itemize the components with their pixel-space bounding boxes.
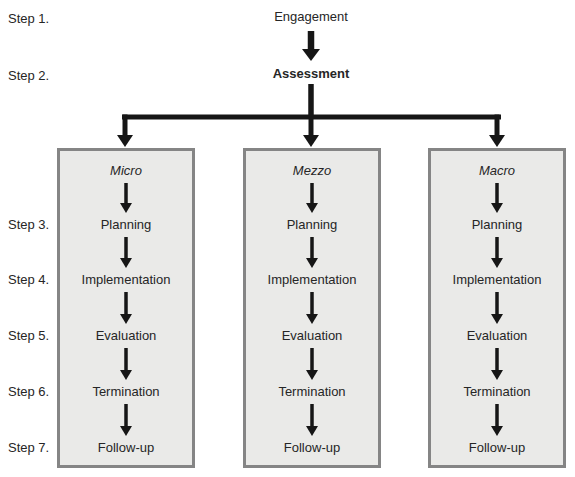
macro-implementation: Implementation [428,271,566,289]
micro-termination: Termination [57,383,195,401]
step-label-1: Step 1. [8,10,88,28]
macro-termination: Termination [428,383,566,401]
mezzo-followup: Follow-up [243,439,381,457]
step-label-2: Step 2. [8,67,88,85]
mezzo-evaluation: Evaluation [243,327,381,345]
node-engagement: Engagement [241,8,381,26]
macro-evaluation: Evaluation [428,327,566,345]
micro-evaluation: Evaluation [57,327,195,345]
mezzo-implementation: Implementation [243,271,381,289]
box-micro [57,148,195,468]
node-assessment: Assessment [241,65,381,83]
macro-followup: Follow-up [428,439,566,457]
mezzo-planning: Planning [243,216,381,234]
arrow-down-icon [489,115,505,148]
micro-implementation: Implementation [57,271,195,289]
micro-followup: Follow-up [57,439,195,457]
box-macro [428,148,566,468]
arrow-down-icon [302,31,320,61]
micro-label: Micro [57,162,195,180]
box-mezzo [243,148,381,468]
flow-diagram: Step 1. Step 2. Step 3. Step 4. Step 5. … [0,0,575,477]
macro-label: Macro [428,162,566,180]
micro-planning: Planning [57,216,195,234]
arrow-down-icon [303,117,319,147]
macro-planning: Planning [428,216,566,234]
mezzo-label: Mezzo [243,162,381,180]
arrow-down-icon [117,115,133,148]
mezzo-termination: Termination [243,383,381,401]
